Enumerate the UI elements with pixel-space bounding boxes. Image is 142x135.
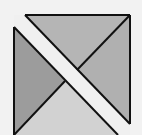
split-square-diagram — [0, 0, 142, 135]
